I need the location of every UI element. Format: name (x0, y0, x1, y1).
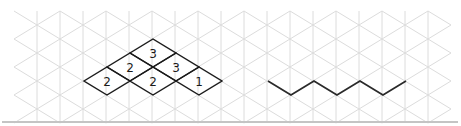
grid-diagonal-line (313, 39, 336, 53)
grid-diagonal-line (221, 109, 244, 123)
grid-diagonal-line (221, 53, 244, 67)
grid-diagonal-line (198, 95, 221, 109)
grid-diagonal-line (152, 25, 175, 39)
grid-diagonal-line (83, 95, 106, 109)
grid-diagonal-line (244, 39, 267, 53)
grid-diagonal-line (336, 53, 359, 67)
grid-diagonal-line (359, 11, 382, 25)
grid-diagonal-line (129, 25, 152, 39)
grid-diagonal-line (290, 67, 313, 81)
grid-diagonal-line (267, 109, 290, 123)
grid-diagonal-line (405, 39, 428, 53)
grid-diagonal-line (382, 95, 405, 109)
grid-diagonal-line (14, 39, 37, 53)
grid-diagonal-line (336, 39, 359, 53)
grid-diagonal-line (14, 109, 37, 123)
triangular-grid (14, 11, 451, 123)
grid-diagonal-line (60, 81, 83, 95)
grid-diagonal-line (198, 109, 221, 123)
grid-diagonal-line (336, 109, 359, 123)
grid-diagonal-line (152, 95, 175, 109)
grid-diagonal-line (405, 81, 428, 95)
grid-diagonal-line (336, 11, 359, 25)
grid-diagonal-line (14, 11, 37, 25)
grid-diagonal-line (221, 25, 244, 39)
grid-diagonal-line (267, 39, 290, 53)
grid-diagonal-line (221, 67, 244, 81)
grid-diagonal-line (267, 25, 290, 39)
grid-diagonal-line (83, 109, 106, 123)
grid-diagonal-line (14, 81, 37, 95)
grid-diagonal-line (428, 53, 451, 67)
grid-diagonal-line (129, 95, 152, 109)
grid-diagonal-line (313, 25, 336, 39)
grid-diagonal-line (14, 95, 37, 109)
grid-diagonal-line (60, 109, 83, 123)
grid-diagonal-line (405, 53, 428, 67)
grid-diagonal-line (244, 11, 267, 25)
grid-diagonal-line (221, 11, 244, 25)
grid-diagonal-line (60, 95, 83, 109)
grid-diagonal-line (106, 11, 129, 25)
grid-diagonal-line (428, 39, 451, 53)
grid-diagonal-line (359, 53, 382, 67)
grid-diagonal-line (267, 95, 290, 109)
grid-diagonal-line (290, 53, 313, 67)
zigzag-path (268, 81, 406, 95)
grid-diagonal-line (244, 25, 267, 39)
rhombus-cell-label: 3 (172, 61, 180, 75)
grid-diagonal-line (198, 11, 221, 25)
grid-diagonal-line (221, 39, 244, 53)
isometric-grid-diagram: 223231 (0, 0, 461, 126)
grid-diagonal-line (290, 39, 313, 53)
grid-diagonal-line (83, 25, 106, 39)
grid-diagonal-line (37, 67, 60, 81)
grid-diagonal-line (428, 81, 451, 95)
grid-diagonal-line (359, 109, 382, 123)
grid-diagonal-line (175, 109, 198, 123)
grid-diagonal-line (244, 53, 267, 67)
grid-diagonal-line (244, 95, 267, 109)
grid-diagonal-line (244, 67, 267, 81)
grid-diagonal-line (428, 109, 451, 123)
grid-diagonal-line (267, 53, 290, 67)
grid-diagonal-line (83, 53, 106, 67)
grid-diagonal-line (175, 25, 198, 39)
grid-diagonal-line (290, 95, 313, 109)
grid-diagonal-line (313, 67, 336, 81)
grid-diagonal-line (382, 53, 405, 67)
grid-diagonal-line (382, 11, 405, 25)
grid-diagonal-line (14, 25, 37, 39)
grid-diagonal-line (428, 11, 451, 25)
grid-diagonal-line (428, 95, 451, 109)
grid-diagonal-line (152, 109, 175, 123)
grid-diagonal-line (290, 25, 313, 39)
grid-diagonal-line (290, 109, 313, 123)
grid-diagonal-line (405, 95, 428, 109)
grid-diagonal-line (382, 109, 405, 123)
grid-diagonal-line (106, 25, 129, 39)
grid-diagonal-line (14, 67, 37, 81)
grid-diagonal-line (359, 95, 382, 109)
grid-diagonal-line (37, 39, 60, 53)
grid-diagonal-line (313, 95, 336, 109)
grid-diagonal-line (37, 11, 60, 25)
grid-diagonal-line (106, 109, 129, 123)
grid-diagonal-line (359, 25, 382, 39)
grid-diagonal-line (60, 11, 83, 25)
grid-diagonal-line (405, 109, 428, 123)
grid-diagonal-line (244, 109, 267, 123)
grid-diagonal-line (37, 25, 60, 39)
grid-diagonal-line (37, 109, 60, 123)
rhombus-cell-label: 1 (195, 75, 203, 89)
grid-diagonal-line (37, 95, 60, 109)
grid-diagonal-line (313, 11, 336, 25)
grid-diagonal-line (60, 67, 83, 81)
grid-diagonal-line (198, 53, 221, 67)
rhombus-cell-label: 3 (149, 47, 157, 61)
grid-diagonal-line (405, 11, 428, 25)
grid-diagonal-line (244, 81, 267, 95)
grid-diagonal-line (336, 95, 359, 109)
grid-diagonal-line (129, 109, 152, 123)
grid-diagonal-line (152, 11, 175, 25)
